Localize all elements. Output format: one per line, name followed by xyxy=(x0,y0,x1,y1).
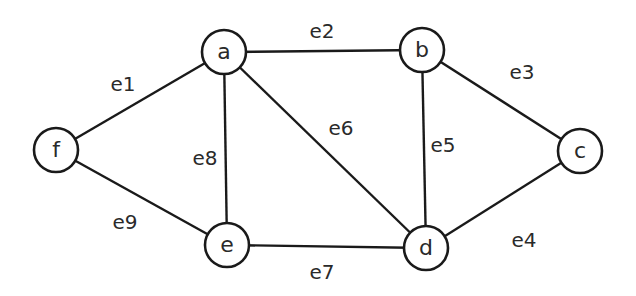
node-label: e xyxy=(220,232,234,257)
edge-label-e6: e6 xyxy=(328,116,353,140)
node-c: c xyxy=(558,129,602,173)
node-label: f xyxy=(52,137,61,162)
edge-labels-layer: e1e2e3e4e5e6e7e8e9 xyxy=(110,19,536,284)
edge-label-e7: e7 xyxy=(309,260,334,284)
edge-e8 xyxy=(224,52,227,245)
edge-e7 xyxy=(227,245,426,248)
edge-e2 xyxy=(224,50,422,52)
edge-e4 xyxy=(426,151,580,248)
edge-e1 xyxy=(56,52,224,150)
node-e: e xyxy=(205,223,249,267)
edge-e5 xyxy=(422,50,426,248)
node-f: f xyxy=(34,128,78,172)
node-label: b xyxy=(415,37,429,62)
edge-label-e8: e8 xyxy=(192,146,217,170)
node-label: a xyxy=(217,39,230,64)
edge-label-e1: e1 xyxy=(110,72,135,96)
node-b: b xyxy=(400,28,444,72)
node-label: c xyxy=(574,138,586,163)
edge-label-e2: e2 xyxy=(309,19,334,43)
edge-label-e5: e5 xyxy=(430,133,455,157)
edge-label-e4: e4 xyxy=(511,228,536,252)
node-a: a xyxy=(202,30,246,74)
node-label: d xyxy=(419,235,433,260)
edge-label-e3: e3 xyxy=(509,60,534,84)
edge-label-e9: e9 xyxy=(112,210,137,234)
node-d: d xyxy=(404,226,448,270)
graph-diagram: e1e2e3e4e5e6e7e8e9 abcdef xyxy=(0,0,636,296)
edge-e6 xyxy=(224,52,426,248)
